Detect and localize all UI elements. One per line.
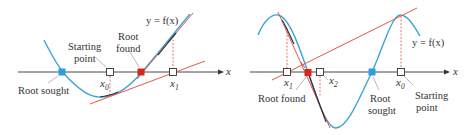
- x2-marker: [317, 69, 324, 76]
- newton-method-diagram: x Root sought Starting point Root found …: [0, 0, 467, 135]
- root-found-marker: [305, 69, 312, 76]
- root-sought-label-line1: Root: [370, 93, 391, 104]
- root-sought-marker: [59, 69, 66, 76]
- starting-point-leader: [96, 58, 106, 67]
- right-panel: x Root found Root sought Starting point …: [250, 8, 458, 128]
- root-found-leader: [130, 52, 139, 67]
- root-sought-label-line2: sought: [368, 105, 396, 116]
- x1-marker: [284, 69, 291, 76]
- root-found-label: Root found: [258, 93, 306, 104]
- x0-marker: [107, 69, 114, 76]
- starting-point-label-line1: Starting: [68, 41, 102, 52]
- x-axis-arrow-icon: [218, 70, 224, 75]
- x0-marker: [398, 69, 405, 76]
- starting-point-label-line1: Starting: [415, 90, 449, 101]
- x1-label: x1: [169, 77, 179, 92]
- x0-label: x0: [99, 77, 109, 92]
- x2-label: x2: [328, 74, 338, 89]
- root-sought-label: Root sought: [18, 85, 69, 96]
- root-found-marker: [138, 69, 145, 76]
- starting-point-label-line2: point: [74, 53, 96, 64]
- x1-marker: [170, 69, 177, 76]
- root-found-leader: [296, 77, 306, 90]
- starting-point-leader: [404, 76, 413, 85]
- starting-point-label-line2: point: [416, 102, 438, 113]
- x2-leader: [324, 76, 328, 80]
- x0-label: x0: [395, 76, 405, 91]
- root-found-label-line2: found: [116, 43, 141, 54]
- function-label: y = f(x): [412, 37, 445, 49]
- root-found-label-line1: Root: [118, 31, 139, 42]
- function-label: y = f(x): [146, 15, 179, 27]
- left-panel: x Root sought Starting point Root found …: [18, 13, 231, 104]
- x-axis-label: x: [225, 65, 231, 77]
- tangent-contact-x2: [308, 72, 326, 122]
- root-sought-marker: [369, 69, 376, 76]
- x1-label: x1: [283, 76, 293, 91]
- root-sought-leader: [373, 77, 379, 90]
- x-axis-label: x: [452, 65, 458, 77]
- root-sought-leader: [48, 76, 58, 83]
- x-axis-arrow-icon: [444, 70, 450, 75]
